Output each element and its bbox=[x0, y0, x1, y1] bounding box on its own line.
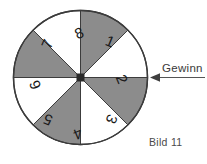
gewinn-pointer bbox=[150, 73, 205, 81]
figure-caption: Bild 11 bbox=[149, 136, 182, 148]
spinner-wheel-graphic: 1 2 3 4 5 6 7 8 Gewinn Bild 11 bbox=[0, 0, 207, 164]
figure-bild-11: 1 2 3 4 5 6 7 8 Gewinn Bild 11 bbox=[0, 0, 207, 164]
gewinn-label: Gewinn bbox=[162, 62, 203, 74]
wheel-hub bbox=[77, 74, 85, 82]
pointer-arrowhead-icon bbox=[150, 73, 160, 81]
